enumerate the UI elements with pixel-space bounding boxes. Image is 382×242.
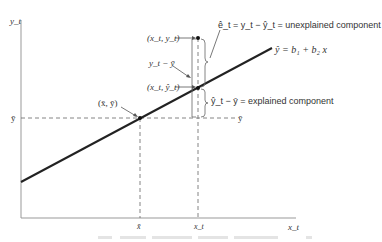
ybar-left-label: ȳ [11, 113, 16, 123]
ybar-right-label: ȳ [238, 113, 243, 123]
arrowhead [186, 74, 191, 78]
residual-brace [201, 39, 208, 87]
mean-point-arrow [121, 107, 136, 116]
residual-arrow [210, 30, 220, 58]
residual-label: ê_t = y_t − ŷ_t = unexplained component [218, 20, 381, 30]
xbar-tick-label: x̄ [136, 222, 141, 231]
regression-equation: ŷ = b₁ + b₂ x [274, 44, 327, 55]
total-deviation-label: y_t − ȳ [148, 58, 176, 68]
total-deviation-arrow [173, 66, 189, 77]
explained-brace [201, 89, 208, 117]
actual-point-label: (x_t, y_t) [147, 33, 179, 43]
fitted-point-label: (x_t, ŷ_t) [147, 82, 179, 92]
mean-point [138, 116, 142, 120]
fitted-point [196, 86, 200, 90]
total-deviation-bracket [192, 39, 196, 117]
y-axis-label: y_t [9, 16, 21, 26]
faint-caption [98, 236, 312, 239]
regression-decomposition-diagram: y_t x_t ȳ ȳ x̄ x_t (x̄, ȳ) (x_t, y_t) (x… [0, 0, 382, 242]
explained-label: ŷ_t − ȳ = explained component [211, 96, 334, 106]
mean-point-label: (x̄, ȳ) [98, 98, 118, 108]
arrowhead [133, 113, 138, 117]
x-axis-label: x_t [287, 222, 299, 232]
xt-tick-label: x_t [193, 222, 205, 231]
regression-line [21, 48, 272, 182]
actual-point [196, 36, 200, 40]
